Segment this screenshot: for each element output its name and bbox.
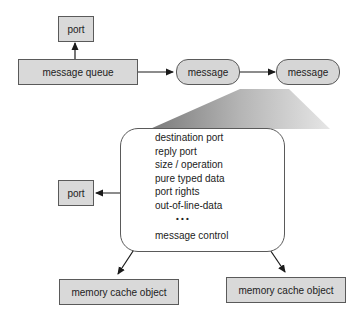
field-ellipsis: • • • (155, 212, 228, 226)
memory-cache-object-left: memory cache object (59, 279, 179, 305)
port-left-node: port (58, 180, 94, 206)
message-field-list: destination port reply port size / opera… (155, 131, 228, 242)
message-node-2: message (276, 59, 340, 85)
port-top-node: port (58, 16, 94, 42)
field-message-control: message control (155, 229, 228, 243)
field-pure-typed-data: pure typed data (155, 172, 228, 186)
field-out-of-line-data: out-of-line-data (155, 199, 228, 213)
field-port-rights: port rights (155, 185, 228, 199)
field-reply-port: reply port (155, 145, 228, 159)
zoom-wedge (150, 89, 330, 129)
field-size-operation: size / operation (155, 158, 228, 172)
field-destination-port: destination port (155, 131, 228, 145)
memory-cache-object-right: memory cache object (226, 277, 346, 303)
message-queue-node: message queue (18, 59, 138, 85)
message-node-1: message (176, 59, 240, 85)
